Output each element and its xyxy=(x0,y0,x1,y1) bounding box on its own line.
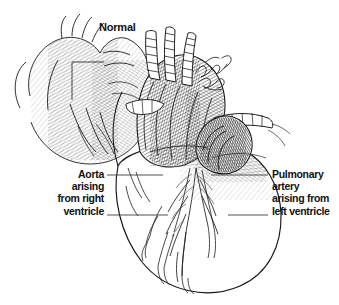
figure-title: Normal xyxy=(99,21,136,33)
heart-illustration xyxy=(0,0,339,305)
heart-anatomy-figure: Normal Aorta arising from right ventricl… xyxy=(0,0,339,305)
callout-line: arising from xyxy=(272,192,339,204)
callout-line: left ventricle xyxy=(272,205,339,217)
callout-line: Pulmonary xyxy=(272,168,339,180)
left-common-carotid-artery xyxy=(164,27,176,82)
callout-line: arising xyxy=(18,180,104,192)
callout-line: from right xyxy=(18,192,104,204)
callout-line: ventricle xyxy=(18,205,104,217)
callout-line: Aorta xyxy=(18,168,104,180)
callout-line: artery xyxy=(272,180,339,192)
callout-aorta-right-ventricle: Aorta arising from right ventricle xyxy=(18,168,104,217)
callout-pulmonary-artery-left-ventricle: Pulmonary artery arising from left ventr… xyxy=(272,168,339,217)
